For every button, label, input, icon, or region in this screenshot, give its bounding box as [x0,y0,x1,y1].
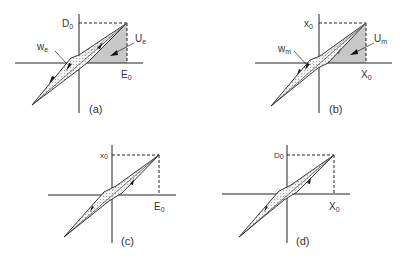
x-max-label: X0 [329,201,340,213]
loss-label: we [36,41,48,53]
panel-c: x0 E0 (c) [48,145,176,247]
panel-d: D0 X0 (d) [222,145,350,247]
panel-caption: (b) [329,103,342,115]
loop-label-leader [55,51,67,64]
panel-caption: (a) [89,103,102,115]
energy-label: Ue [135,33,146,45]
energy-label: Um [374,33,387,45]
y-max-label: x0 [100,151,108,160]
x-max-label: E0 [154,201,165,213]
panel-a: D0 E0 we Ue (a) [15,14,146,115]
inner-dashed-line [287,155,334,189]
panel-caption: (d) [296,235,309,247]
panel-b: x0 X0 wm Um (b) [255,14,392,115]
loop-label-leader [294,51,306,64]
x-max-label: E0 [121,69,132,81]
panel-caption: (c) [121,235,134,247]
y-max-label: x0 [304,18,313,30]
y-max-label: D0 [274,151,284,160]
y-max-label: D0 [62,18,73,30]
hysteresis-diagram: D0 E0 we Ue (a) x0 X0 wm Um (b) [0,0,406,264]
x-max-label: X0 [361,69,372,81]
loss-label: wm [277,43,291,55]
inner-dashed-line [112,155,159,190]
